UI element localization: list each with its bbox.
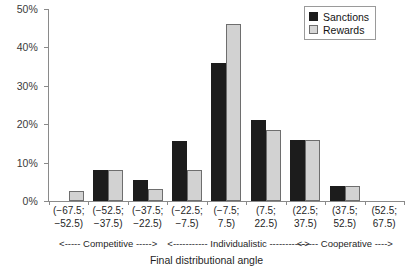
bar-rewards <box>108 170 123 201</box>
bar-rewards <box>69 191 84 201</box>
y-tick-label: 30% <box>17 80 38 92</box>
y-tick-mark <box>44 201 48 202</box>
y-tick-label: 10% <box>17 157 38 169</box>
bar-group <box>167 9 206 201</box>
x-category-label: (52.5;67.5) <box>365 205 404 230</box>
x-category-label: (−37.5;−22.5) <box>128 205 167 230</box>
bar-sanctions <box>172 141 187 201</box>
chart-legend: Sanctions Rewards <box>304 6 376 40</box>
y-tick-mark <box>44 47 48 48</box>
x-axis-title: Final distributional angle <box>0 254 413 266</box>
y-tick-label: 20% <box>17 118 38 130</box>
bracket-annotation: <----------- Individualistic -----------… <box>167 237 285 251</box>
bar-sanctions <box>290 140 305 201</box>
bar-rewards <box>187 170 202 201</box>
bar-rewards <box>345 186 360 201</box>
bar-sanctions <box>330 186 345 201</box>
bar-group <box>128 9 167 201</box>
y-tick-mark <box>44 163 48 164</box>
bar-rewards <box>266 130 281 201</box>
x-category-label: (−22.5;−7.5) <box>167 205 206 230</box>
x-axis-line <box>48 201 404 202</box>
y-tick-mark <box>44 124 48 125</box>
bar-rewards <box>226 24 241 201</box>
x-tick-mark <box>404 201 405 205</box>
bar-group <box>207 9 246 201</box>
bar-sanctions <box>211 63 226 201</box>
rewards-swatch-icon <box>309 25 318 34</box>
bar-rewards <box>305 140 320 201</box>
bar-group <box>49 9 88 201</box>
bar-group <box>88 9 127 201</box>
x-category-label: (−67.5;−52.5) <box>49 205 88 230</box>
legend-label-rewards: Rewards <box>323 24 364 36</box>
bracket-annotation: <----- Competitive -----> <box>49 237 167 251</box>
bar-sanctions <box>133 180 148 201</box>
x-category-label: (37.5;52.5) <box>325 205 364 230</box>
x-category-label: (−52.5;−37.5) <box>88 205 127 230</box>
chart-figure: 0%10%20%30%40%50% (−67.5;−52.5)(−52.5;−3… <box>0 0 413 273</box>
y-tick-label: 0% <box>23 195 38 207</box>
legend-item-rewards: Rewards <box>309 23 369 36</box>
sanctions-swatch-icon <box>309 12 318 21</box>
x-category-label: (22.5;37.5) <box>286 205 325 230</box>
bar-sanctions <box>93 170 108 201</box>
legend-item-sanctions: Sanctions <box>309 10 369 23</box>
y-tick-mark <box>44 9 48 10</box>
bar-sanctions <box>251 120 266 201</box>
orientation-brackets: <----- Competitive -----><----------- In… <box>24 237 404 251</box>
legend-label-sanctions: Sanctions <box>323 11 369 23</box>
y-tick-label: 50% <box>17 3 38 15</box>
y-tick-mark <box>44 86 48 87</box>
x-category-label: (7.5;22.5) <box>246 205 285 230</box>
bracket-annotation: <----- Cooperative ----> <box>286 237 404 251</box>
y-tick-label: 40% <box>17 41 38 53</box>
x-axis-category-labels: (−67.5;−52.5)(−52.5;−37.5)(−37.5;−22.5)(… <box>49 205 404 230</box>
bar-rewards <box>148 189 163 201</box>
bar-group <box>246 9 285 201</box>
x-category-label: (−7.5;7.5) <box>207 205 246 230</box>
